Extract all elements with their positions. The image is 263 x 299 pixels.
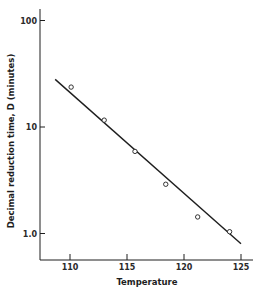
x-tick-label: 110	[62, 263, 79, 272]
regression-line	[55, 79, 241, 243]
x-tick-label: 125	[233, 263, 250, 272]
y-tick-label: 100	[20, 17, 37, 26]
y-axis-title: Decimal reduction time, D (minutes)	[6, 54, 16, 229]
x-ticks: 110115120125	[62, 254, 250, 272]
x-axis-title: Temperature	[116, 277, 177, 287]
fitted-line	[55, 79, 241, 243]
data-point-marker	[102, 118, 106, 122]
x-tick-label: 115	[119, 263, 136, 272]
y-ticks: 100101.0	[20, 17, 45, 239]
data-points	[69, 85, 232, 234]
y-tick-label: 1.0	[23, 230, 38, 239]
data-point-marker	[227, 229, 231, 233]
y-tick-label: 10	[26, 123, 38, 132]
data-point-marker	[69, 85, 73, 89]
data-point-marker	[164, 182, 168, 186]
axes	[40, 9, 253, 260]
x-tick-label: 120	[176, 263, 193, 272]
data-point-marker	[195, 215, 199, 219]
data-point-marker	[133, 149, 137, 153]
chart: 110115120125 100101.0 Temperature Decima…	[0, 0, 263, 299]
